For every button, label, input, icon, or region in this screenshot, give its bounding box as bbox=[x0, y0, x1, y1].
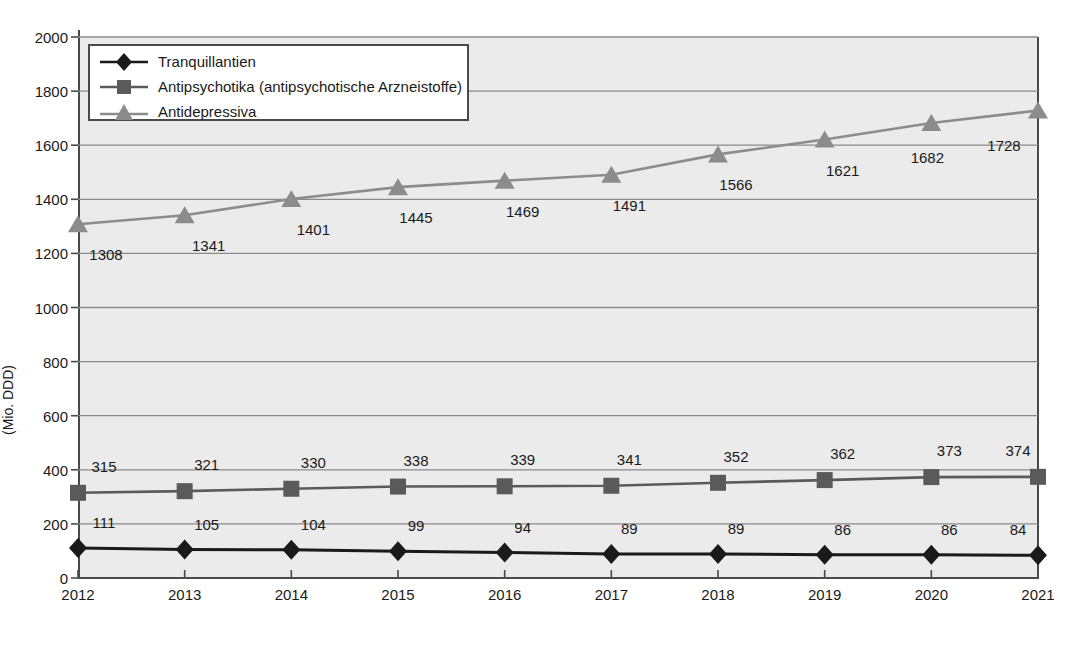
data-point-label: 1682 bbox=[911, 149, 944, 166]
data-point-label: 94 bbox=[514, 518, 531, 535]
legend-item-antipsychotika: Antipsychotika (antipsychotische Arzneis… bbox=[90, 74, 467, 99]
data-point-label: 339 bbox=[510, 451, 535, 468]
legend-item-antidepressiva: Antidepressiva bbox=[90, 99, 467, 124]
data-point-label: 330 bbox=[301, 453, 326, 470]
legend-item-tranquillantien: Tranquillantien bbox=[90, 49, 467, 74]
x-tick-label: 2013 bbox=[168, 586, 201, 603]
x-axis-line bbox=[78, 577, 1039, 579]
legend-label: Antipsychotika (antipsychotische Arzneis… bbox=[158, 78, 462, 95]
data-point-label: 352 bbox=[723, 447, 748, 464]
y-axis-tick-labels: 0200400600800100012001400160018002000 bbox=[0, 0, 68, 647]
y-tick-label: 1200 bbox=[6, 245, 68, 262]
data-point-label: 374 bbox=[1005, 441, 1030, 458]
legend-label: Antidepressiva bbox=[158, 103, 256, 120]
y-tick-label: 1600 bbox=[6, 137, 68, 154]
data-point-label: 1491 bbox=[613, 196, 646, 213]
y-tick-label: 1000 bbox=[6, 299, 68, 316]
y-tick-label: 1800 bbox=[6, 83, 68, 100]
data-point-label: 89 bbox=[621, 519, 638, 536]
legend-label: Tranquillantien bbox=[158, 53, 256, 70]
y-tick-label: 600 bbox=[6, 407, 68, 424]
data-point-label: 1621 bbox=[826, 161, 859, 178]
data-point-label: 362 bbox=[830, 445, 855, 462]
plot-right-border bbox=[1037, 37, 1039, 579]
data-point-label: 373 bbox=[937, 442, 962, 459]
y-tick-label: 1400 bbox=[6, 191, 68, 208]
data-point-label: 86 bbox=[941, 520, 958, 537]
y-tick-label: 0 bbox=[6, 570, 68, 587]
data-point-label: 1445 bbox=[399, 209, 432, 226]
data-point-label: 1401 bbox=[297, 221, 330, 238]
diamond-marker-icon bbox=[98, 51, 150, 73]
x-tick-label: 2017 bbox=[595, 586, 628, 603]
y-axis-line bbox=[78, 30, 80, 579]
data-point-label: 1728 bbox=[987, 136, 1020, 153]
line-chart: (Mio. DDD) 02004006008001000120014001600… bbox=[0, 0, 1079, 647]
x-tick-label: 2020 bbox=[915, 586, 948, 603]
triangle-marker-icon bbox=[98, 101, 150, 123]
y-tick-label: 2000 bbox=[6, 29, 68, 46]
x-tick-label: 2019 bbox=[808, 586, 841, 603]
data-point-label: 338 bbox=[403, 451, 428, 468]
y-tick-label: 400 bbox=[6, 461, 68, 478]
data-point-label: 321 bbox=[194, 456, 219, 473]
data-point-label: 341 bbox=[617, 450, 642, 467]
data-point-label: 1308 bbox=[89, 246, 122, 263]
square-marker-icon bbox=[98, 76, 150, 98]
y-tick-label: 200 bbox=[6, 515, 68, 532]
chart-legend: Tranquillantien Antipsychotika (antipsyc… bbox=[88, 44, 469, 121]
data-point-label: 111 bbox=[93, 513, 116, 530]
data-point-label: 86 bbox=[834, 520, 851, 537]
data-point-label: 99 bbox=[408, 517, 425, 534]
x-tick-label: 2015 bbox=[381, 586, 414, 603]
data-point-label: 105 bbox=[194, 515, 219, 532]
data-point-label: 84 bbox=[1010, 521, 1027, 538]
x-tick-label: 2016 bbox=[488, 586, 521, 603]
x-tick-label: 2014 bbox=[275, 586, 308, 603]
data-point-label: 104 bbox=[301, 515, 326, 532]
x-tick-label: 2018 bbox=[701, 586, 734, 603]
data-point-label: 315 bbox=[91, 457, 116, 474]
x-tick-label: 2012 bbox=[61, 586, 94, 603]
data-point-label: 89 bbox=[728, 519, 745, 536]
x-tick-label: 2021 bbox=[1021, 586, 1054, 603]
data-point-label: 1469 bbox=[506, 202, 539, 219]
data-point-label: 1341 bbox=[192, 237, 225, 254]
data-point-label: 1566 bbox=[719, 176, 752, 193]
y-tick-label: 800 bbox=[6, 353, 68, 370]
